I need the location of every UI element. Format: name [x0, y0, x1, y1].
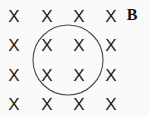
- field-marker-x: X: [73, 37, 84, 54]
- field-marker-x: X: [41, 8, 52, 25]
- field-marker-x: X: [8, 67, 19, 84]
- field-marker-x: X: [41, 37, 52, 54]
- field-marker-x: X: [8, 8, 19, 25]
- field-marker-x: X: [105, 96, 116, 113]
- field-marker-x: X: [8, 96, 19, 113]
- field-marker-x: X: [41, 96, 52, 113]
- field-marker-x: X: [8, 37, 19, 54]
- field-marker-x: X: [73, 96, 84, 113]
- field-marker-x: X: [73, 8, 84, 25]
- field-marker-x: X: [105, 8, 116, 25]
- field-marker-x: X: [105, 37, 116, 54]
- magnetic-field-label-b: B: [127, 7, 138, 23]
- field-marker-x: X: [73, 67, 84, 84]
- magnetic-field-figure: XXXXXXXXXXXXXXXX B: [0, 0, 149, 117]
- field-marker-x: X: [105, 67, 116, 84]
- field-marker-x: X: [41, 67, 52, 84]
